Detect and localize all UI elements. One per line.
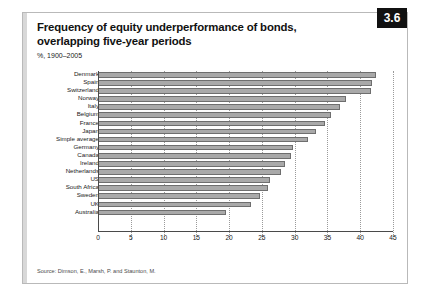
bar (98, 121, 325, 127)
bar-series: DenmarkSpainSwitzerlandNorwayItalyBelgiu… (37, 71, 395, 231)
category-label: Italy (0, 102, 99, 110)
bar (98, 193, 260, 199)
bar (98, 104, 340, 110)
exhibit-number-badge: 3.6 (377, 8, 407, 28)
x-tick-label: 25 (258, 234, 265, 241)
bar (98, 185, 268, 191)
category-label: Australia (0, 208, 99, 216)
category-label: Norway (0, 94, 99, 102)
bar (98, 210, 226, 216)
x-tick-label: 40 (357, 234, 364, 241)
category-label: Netherlands (0, 167, 99, 175)
category-label: Ireland (0, 159, 99, 167)
bar (98, 202, 251, 208)
category-label: Canada (0, 151, 99, 159)
category-label: France (0, 119, 99, 127)
category-label: Switzerland (0, 86, 99, 94)
category-label: Denmark (0, 70, 99, 78)
exhibit-card: 3.6 Frequency of equity underperformance… (22, 12, 408, 284)
x-tick-label: 35 (324, 234, 331, 241)
bar (98, 88, 371, 94)
x-tick-label: 45 (389, 234, 396, 241)
x-tick-label: 5 (129, 234, 133, 241)
bar (98, 161, 285, 167)
category-label: Sweden (0, 191, 99, 199)
category-label: Spain (0, 78, 99, 86)
x-tick-label: 15 (193, 234, 200, 241)
bar (98, 96, 346, 102)
bar (98, 169, 281, 175)
category-label: South Africa (0, 183, 99, 191)
category-label: Belgium (0, 110, 99, 118)
bar (98, 72, 376, 78)
x-tick-label: 30 (291, 234, 298, 241)
bar (98, 80, 372, 86)
category-label: Germany (0, 143, 99, 151)
x-tick-label: 0 (96, 234, 100, 241)
chart-subtitle: %, 1900–2005 (37, 52, 82, 59)
bar (98, 145, 293, 151)
x-axis-line (98, 231, 393, 232)
category-label: Japan (0, 127, 99, 135)
x-axis-ticks: 051015202530354045 (98, 234, 393, 248)
x-tick-label: 10 (160, 234, 167, 241)
bar-row: Australia (37, 209, 395, 217)
chart-plot-area: DenmarkSpainSwitzerlandNorwayItalyBelgiu… (37, 71, 395, 231)
chart-title: Frequency of equity underperformance of … (37, 20, 355, 48)
category-label: UK (0, 200, 99, 208)
source-note: Source: Dimson, E., Marsh, P. and Staunt… (37, 268, 156, 274)
bar (98, 153, 291, 159)
category-label: US (0, 175, 99, 183)
bar (98, 177, 270, 183)
category-label: Simple average (0, 135, 99, 143)
bar (98, 129, 316, 135)
bar (98, 112, 331, 118)
bar (98, 137, 308, 143)
x-tick-label: 20 (225, 234, 232, 241)
y-axis-line (98, 71, 99, 232)
